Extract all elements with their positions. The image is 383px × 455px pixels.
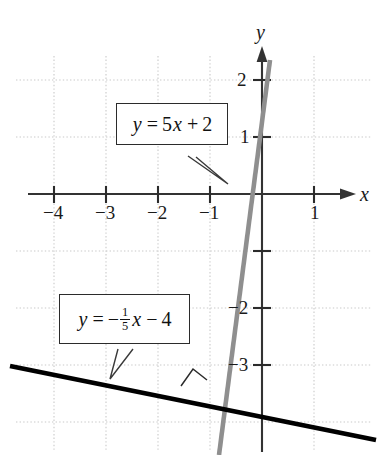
equation-2: y=−15x−4 (78, 306, 172, 332)
y-tick-label-2: 2 (237, 70, 247, 89)
x-tick-label--3: −3 (95, 203, 115, 222)
eq2-minus-2: − (142, 309, 161, 329)
eq2-y: y (78, 309, 89, 329)
x-tick-label--1: −1 (199, 203, 219, 222)
eq2-x: x (131, 309, 142, 329)
y-tick-label-1: 1 (240, 127, 250, 146)
x-tick-label-1: 1 (310, 203, 320, 222)
eq1-y: y (132, 114, 143, 134)
eq2-equals: = (88, 309, 107, 329)
plot-canvas (0, 0, 383, 455)
label-line-1: y=5x+2 (116, 103, 228, 145)
eq2-fraction-numerator: 1 (120, 306, 130, 319)
eq1-intercept: 2 (202, 114, 212, 134)
x-axis (28, 189, 356, 200)
label-line-2: y=−15x−4 (59, 294, 190, 344)
y-axis-label: y (256, 22, 265, 42)
right-angle-marker (181, 369, 207, 386)
x-axis-label: x (360, 184, 369, 204)
equation-1: y=5x+2 (132, 114, 212, 134)
y-tick-label--3: −3 (228, 355, 248, 374)
callout-1-leader (188, 156, 228, 184)
callout-2-leader (110, 349, 133, 379)
y-tick-label--2: −2 (228, 298, 248, 317)
eq1-equals: = (143, 114, 162, 134)
eq1-x: x (172, 114, 183, 134)
x-tick-label--4: −4 (43, 203, 63, 222)
eq1-plus: + (183, 114, 202, 134)
line-y-equals-neg-one-fifth-x-minus-4 (10, 366, 376, 440)
eq2-intercept: 4 (161, 309, 171, 329)
eq2-fraction-one-fifth: 15 (120, 306, 130, 332)
eq2-minus-sign: − (108, 309, 119, 329)
x-tick-label--2: −2 (147, 203, 167, 222)
eq2-fraction-denominator: 5 (120, 319, 130, 333)
graph-figure: −4 −3 −2 −1 1 2 1 −2 −3 x y y=5x+2 y=−15… (0, 0, 383, 455)
eq1-slope: 5 (162, 114, 172, 134)
